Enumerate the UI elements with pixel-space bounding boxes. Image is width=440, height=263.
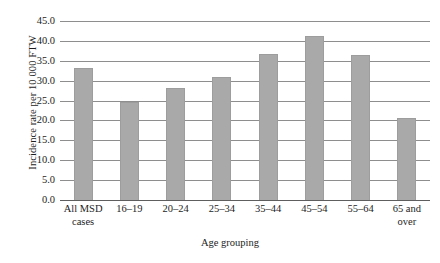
y-axis-tick-label: 20.0 (22, 115, 55, 125)
y-axis-tick-label: 35.0 (22, 56, 55, 66)
bar (120, 102, 139, 200)
bar (397, 118, 416, 200)
plot-area (60, 21, 430, 200)
bar-slot (199, 21, 245, 200)
x-tick-slot: 65 and over (384, 203, 430, 228)
x-tick-slot: 16–19 (106, 203, 152, 228)
x-tick-slot: 25–34 (199, 203, 245, 228)
bar-chart-figure: Incidence rate per 10 000 FTW 45.040.035… (0, 0, 440, 263)
bar-slot (60, 21, 106, 200)
x-axis-tick-label: All MSD cases (60, 203, 106, 228)
y-axis-tick-label: 40.0 (22, 36, 55, 46)
x-tick-slot: 35–44 (245, 203, 291, 228)
bar-slot (106, 21, 152, 200)
y-axis-tick-label: 0.0 (22, 195, 55, 205)
y-axis-tick-label: 25.0 (22, 96, 55, 106)
x-axis-tick-labels: All MSD cases16–1920–2425–3435–4445–5455… (60, 203, 430, 228)
bar-slot (153, 21, 199, 200)
y-axis-tick-label: 45.0 (22, 16, 55, 26)
bar (74, 68, 93, 200)
bar-slot (291, 21, 337, 200)
bar (166, 88, 185, 200)
y-axis-tick-label: 30.0 (22, 76, 55, 86)
bar (305, 36, 324, 200)
x-axis-tick-label: 65 and over (384, 203, 430, 228)
bar (259, 54, 278, 200)
x-tick-slot: All MSD cases (60, 203, 106, 228)
x-tick-slot: 55–64 (338, 203, 384, 228)
x-tick-slot: 20–24 (153, 203, 199, 228)
bar-slot (245, 21, 291, 200)
y-axis-tick-label: 10.0 (22, 155, 55, 165)
bar-slot (338, 21, 384, 200)
bar-slot (384, 21, 430, 200)
x-axis-tick-label: 25–34 (199, 203, 245, 216)
x-axis-tick-label: 55–64 (338, 203, 384, 216)
x-axis-title: Age grouping (60, 237, 400, 248)
x-axis-tick-label: 16–19 (106, 203, 152, 216)
bar (212, 77, 231, 200)
x-axis-tick-label: 45–54 (291, 203, 337, 216)
y-axis-tick-labels: 45.040.035.030.025.020.015.010.05.00.0 (22, 16, 55, 200)
bars-container (60, 21, 430, 200)
x-axis-baseline (60, 200, 430, 201)
bar (351, 55, 370, 200)
x-axis-tick-label: 35–44 (245, 203, 291, 216)
y-axis-tick-label: 15.0 (22, 135, 55, 145)
x-axis-tick-label: 20–24 (153, 203, 199, 216)
x-tick-slot: 45–54 (291, 203, 337, 228)
y-axis-tick-label: 5.0 (22, 175, 55, 185)
